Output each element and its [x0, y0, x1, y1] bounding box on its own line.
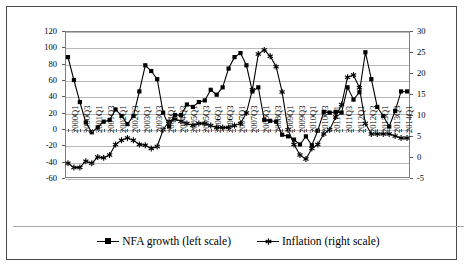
y-axis-right-tick [410, 157, 413, 158]
data-point-marker [399, 89, 403, 93]
x-axis-tick-label: 2007Q1 [238, 106, 247, 133]
x-axis-tick-label: 2013Q1 [381, 106, 390, 133]
x-axis-tick-label: 2010Q3 [321, 106, 330, 133]
x-axis-tick [371, 129, 372, 132]
x-axis-tick [377, 129, 378, 132]
x-axis-tick [401, 129, 402, 132]
data-point-marker [256, 51, 261, 57]
x-axis-tick [74, 129, 75, 132]
x-axis-tick [270, 129, 271, 132]
data-point-marker [369, 77, 373, 81]
x-axis-tick [229, 129, 230, 132]
data-point-marker [78, 100, 82, 104]
x-axis-tick [407, 129, 408, 132]
x-axis-tick-label: 2005Q3 [202, 106, 211, 133]
x-axis-tick [217, 129, 218, 132]
x-axis-tick [127, 129, 128, 132]
y-axis-left-tick [62, 178, 65, 179]
x-axis-tick [359, 129, 360, 132]
y-axis-right-tick-label: -5 [417, 174, 424, 183]
x-axis-tick-label: 2001Q1 [95, 106, 104, 133]
x-axis-tick [318, 129, 319, 132]
chart-area: 120100806040200-20-40-60302520151050-520… [25, 21, 445, 217]
y-axis-left-tick [62, 96, 65, 97]
data-point-marker [351, 72, 356, 78]
x-axis-tick [145, 129, 146, 132]
y-axis-right-tick-label: 20 [417, 69, 426, 78]
x-axis-tick [199, 129, 200, 132]
data-point-marker [137, 89, 141, 93]
x-axis-tick [104, 129, 105, 132]
x-axis-tick [181, 129, 182, 132]
x-axis-tick [240, 129, 241, 132]
data-point-marker [65, 160, 70, 166]
chart-legend: NFA growth (left scale)Inflation (right … [13, 229, 464, 253]
x-axis-tick [336, 129, 337, 132]
x-axis-tick [264, 129, 265, 132]
y-axis-left-tick-label: -60 [31, 174, 57, 183]
y-axis-left-tick-label: 80 [31, 60, 57, 69]
legend-item-2[interactable]: Inflation (right scale) [257, 235, 380, 247]
y-axis-left-tick [62, 113, 65, 114]
x-axis-tick-label: 2002Q1 [119, 106, 128, 133]
y-axis-right-tick-label: 10 [417, 111, 426, 120]
data-point-marker [244, 63, 248, 67]
x-axis-tick [342, 129, 343, 132]
x-axis-tick [294, 129, 295, 132]
data-point-marker [155, 77, 159, 81]
x-axis-tick-label: 2006Q1 [214, 106, 223, 133]
data-point-marker [256, 85, 260, 89]
x-axis-tick-label: 2014Q1 [405, 106, 414, 133]
x-axis-tick-label: 2011Q1 [333, 106, 342, 133]
data-point-marker [221, 85, 225, 89]
x-axis-tick [252, 129, 253, 132]
x-axis-tick [300, 129, 301, 132]
y-axis-left-tick [62, 31, 65, 32]
x-axis-tick [169, 129, 170, 132]
y-axis-left-tick-label: 60 [31, 76, 57, 85]
x-axis-tick [98, 129, 99, 132]
x-axis-tick [211, 129, 212, 132]
y-axis-right-tick [410, 136, 413, 137]
x-axis-tick [288, 129, 289, 132]
x-axis-tick-label: 2005Q1 [190, 106, 199, 133]
x-axis-tick-label: 2000Q3 [83, 106, 92, 133]
x-axis-tick [330, 129, 331, 132]
data-point-marker [125, 135, 130, 141]
data-point-marker [393, 133, 398, 139]
legend-star-marker-icon [257, 236, 279, 246]
data-point-marker [274, 64, 279, 70]
data-point-marker [149, 69, 153, 73]
data-point-marker [303, 156, 308, 162]
y-axis-left-tick [62, 162, 65, 163]
x-axis-tick-label: 2009Q1 [286, 106, 295, 133]
x-axis-tick-label: 2008Q3 [274, 106, 283, 133]
legend-item-1[interactable]: NFA growth (left scale) [97, 235, 231, 247]
x-axis-tick-label: 2004Q1 [167, 106, 176, 133]
x-axis-tick-label: 2001Q3 [107, 106, 116, 133]
y-axis-left-tick-label: 20 [31, 109, 57, 118]
y-axis-left-tick-label: 40 [31, 92, 57, 101]
y-axis-right-tick-label: 30 [417, 27, 426, 36]
x-axis-tick [163, 129, 164, 132]
x-axis-tick [193, 129, 194, 132]
data-point-marker [203, 98, 207, 102]
y-axis-right-tick [410, 52, 413, 53]
data-point-marker [72, 78, 76, 82]
x-axis-tick [80, 129, 81, 132]
x-axis-tick-label: 2011Q3 [345, 106, 354, 133]
y-axis-left-tick-label: -40 [31, 158, 57, 167]
y-axis-right-tick-label: 15 [417, 90, 426, 99]
x-axis-tick-label: 2002Q3 [131, 106, 140, 133]
data-point-marker [280, 133, 284, 137]
y-axis-right-tick [410, 73, 413, 74]
data-point-marker [280, 89, 285, 95]
y-axis-right-tick [410, 94, 413, 95]
data-point-marker [143, 63, 147, 67]
y-axis-left-tick-label: -20 [31, 141, 57, 150]
x-axis-tick [157, 129, 158, 132]
data-point-marker [226, 66, 230, 70]
chart-frame: 120100806040200-20-40-60302520151050-520… [6, 6, 457, 260]
x-axis-tick-label: 2013Q3 [393, 106, 402, 133]
